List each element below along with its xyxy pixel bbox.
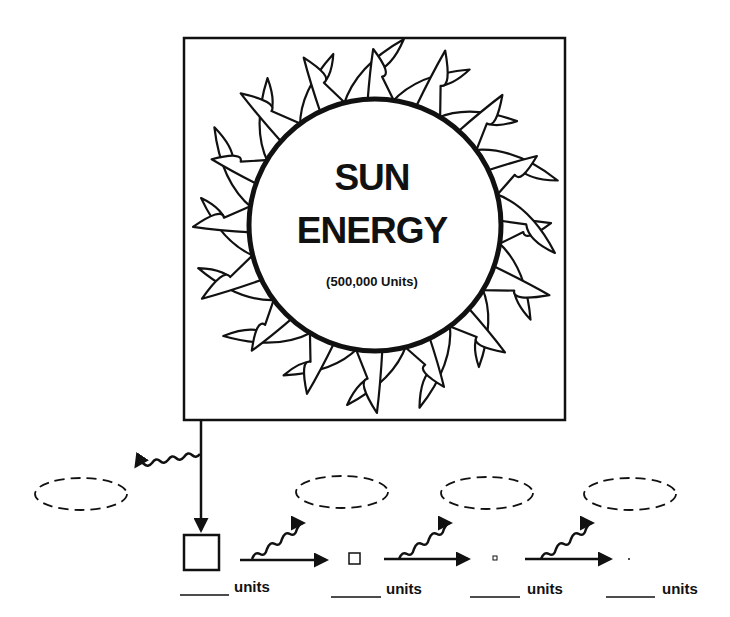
sun-title-line1: SUN: [334, 157, 409, 198]
heat-loss-oval-3[interactable]: [584, 478, 676, 510]
level-box-2: [493, 556, 497, 560]
energy-pyramid-diagram: SUN ENERGY (500,000 Units) units units u…: [0, 0, 730, 617]
heat-loss-oval-2[interactable]: [441, 477, 533, 509]
sun-energy-amount: (500,000 Units): [326, 274, 418, 289]
sun-title-line2: ENERGY: [297, 210, 449, 251]
heat-loss-oval-0[interactable]: [35, 478, 127, 510]
heat-loss-wavy-arrow-2: [399, 523, 450, 559]
units-label-0: units: [234, 578, 270, 595]
level-box-0: [184, 535, 219, 570]
level-box-1: [349, 553, 360, 564]
units-label-3: units: [662, 580, 698, 597]
units-label-2: units: [527, 580, 563, 597]
heat-loss-wavy-arrow-0: [136, 453, 200, 466]
heat-loss-wavy-arrow-3: [541, 523, 592, 559]
units-label-1: units: [386, 580, 422, 597]
heat-loss-oval-1[interactable]: [296, 476, 388, 508]
level-dot-3: [628, 558, 630, 560]
heat-loss-wavy-arrow-1: [252, 523, 303, 559]
